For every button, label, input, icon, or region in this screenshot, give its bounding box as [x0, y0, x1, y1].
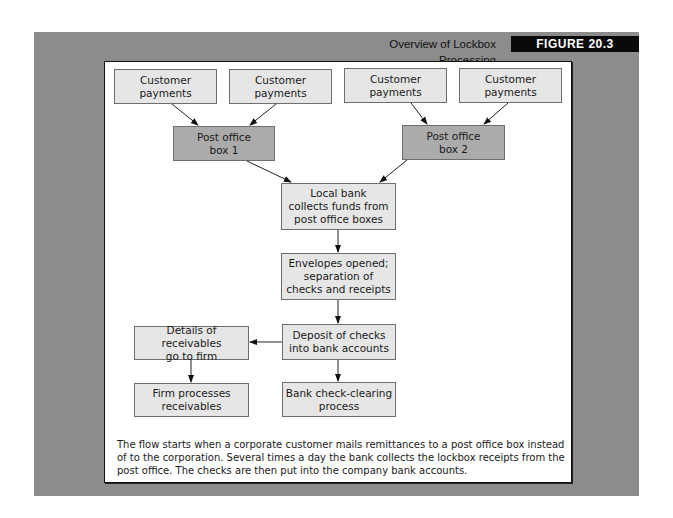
figure-title: Overview of Lockbox Processing: [336, 36, 496, 52]
node-envelopes-opened: Envelopes opened; separation of checks a…: [281, 253, 396, 300]
figure-label: FIGURE 20.3: [511, 36, 639, 52]
node-deposit-checks: Deposit of checks into bank accounts: [282, 324, 396, 360]
node-customer-payments-1: Customer payments: [114, 69, 217, 104]
figure-caption: The flow starts when a corporate custome…: [117, 438, 567, 477]
node-details-receivables: Details of receivables go to firm: [134, 326, 249, 360]
node-firm-processes: Firm processes receivables: [134, 383, 249, 417]
node-customer-payments-4: Customer payments: [459, 68, 562, 103]
node-check-clearing: Bank check-clearing process: [282, 382, 396, 417]
node-customer-payments-3: Customer payments: [344, 68, 447, 103]
node-post-office-box-1: Post office box 1: [173, 126, 275, 161]
node-local-bank: Local bank collects funds from post offi…: [281, 183, 396, 230]
node-post-office-box-2: Post office box 2: [402, 125, 505, 160]
node-customer-payments-2: Customer payments: [229, 69, 332, 104]
